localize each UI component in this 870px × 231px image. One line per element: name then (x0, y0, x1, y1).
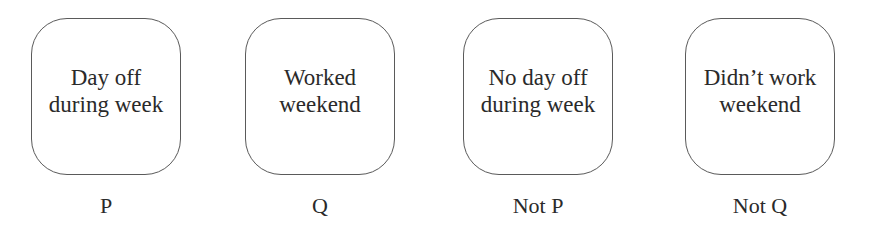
card-text: No day off during week (481, 64, 595, 118)
card-text: Day off during week (49, 64, 163, 118)
card-not-p: No day off during week (463, 18, 613, 175)
card-label-not-q: Not Q (685, 193, 835, 219)
card-label-q: Q (245, 193, 395, 219)
card-q: Worked weekend (245, 18, 395, 175)
card-not-q: Didn’t work weekend (685, 18, 835, 175)
card-text: Didn’t work weekend (704, 64, 817, 118)
card-label-not-p: Not P (463, 193, 613, 219)
card-text: Worked weekend (279, 64, 361, 118)
card-label-p: P (31, 193, 181, 219)
card-p: Day off during week (31, 18, 181, 175)
